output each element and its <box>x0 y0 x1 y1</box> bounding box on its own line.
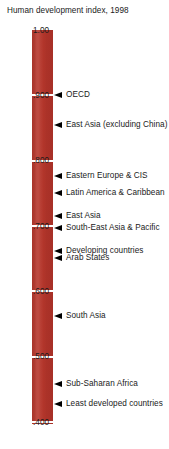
left-arrow-icon <box>54 255 62 261</box>
axis-tick-label: .800 <box>7 156 49 165</box>
hdi-marker: South-East Asia & Pacific <box>53 222 160 233</box>
hdi-scale-chart: Human development index, 1998 1.00.900.8… <box>0 0 169 449</box>
axis-tick-label: .900 <box>7 91 49 100</box>
hdi-marker: Eastern Europe & CIS <box>53 170 148 181</box>
hdi-marker-label: East Asia <box>66 211 101 221</box>
hdi-marker-label: Latin America & Caribbean <box>66 188 165 198</box>
axis-tick-label: 1.00 <box>7 26 49 35</box>
axis-tick-label: .400 <box>7 418 49 427</box>
left-arrow-icon <box>54 225 62 231</box>
hdi-marker: South Asia <box>53 311 106 322</box>
axis-tick-label: .700 <box>7 222 49 231</box>
chart-title: Human development index, 1998 <box>7 6 129 16</box>
left-arrow-icon <box>54 173 62 179</box>
hdi-marker-label: East Asia (excluding China) <box>66 120 167 130</box>
left-arrow-icon <box>54 190 62 196</box>
hdi-marker: Least developed countries <box>53 399 163 410</box>
hdi-marker-label: Least developed countries <box>66 399 163 409</box>
hdi-marker: East Asia (excluding China) <box>53 120 167 131</box>
hdi-marker-label: Arab States <box>66 253 109 263</box>
left-arrow-icon <box>54 381 62 387</box>
left-arrow-icon <box>54 401 62 407</box>
left-arrow-icon <box>54 213 62 219</box>
hdi-marker: Arab States <box>53 253 109 264</box>
hdi-marker-label: Eastern Europe & CIS <box>66 171 148 181</box>
hdi-marker: Sub-Saharan Africa <box>53 379 138 390</box>
left-arrow-icon <box>54 313 62 319</box>
axis-tick-label: .500 <box>7 352 49 361</box>
left-arrow-icon <box>54 92 62 98</box>
hdi-marker-label: South Asia <box>66 311 106 321</box>
hdi-marker-label: OECD <box>66 90 90 100</box>
hdi-marker: Latin America & Caribbean <box>53 187 165 198</box>
axis-tick-label: .600 <box>7 287 49 296</box>
hdi-marker-label: Sub-Saharan Africa <box>66 379 138 389</box>
hdi-marker: East Asia <box>53 210 101 221</box>
hdi-marker: OECD <box>53 90 90 101</box>
hdi-marker-label: South-East Asia & Pacific <box>66 223 160 233</box>
left-arrow-icon <box>54 122 62 128</box>
